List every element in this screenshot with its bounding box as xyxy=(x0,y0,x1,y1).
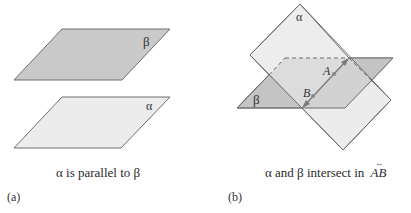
tag-b: (b) xyxy=(228,190,242,205)
label-beta-a: β xyxy=(143,34,150,49)
label-alpha-b: α xyxy=(296,10,303,24)
point-b xyxy=(311,94,315,98)
caption-b: α and β intersect in ↔ AB xyxy=(265,165,386,181)
point-a xyxy=(332,72,336,76)
diagram-canvas: β α α β A B xyxy=(0,0,411,213)
tag-a: (a) xyxy=(7,190,20,205)
caption-a: α is parallel to β xyxy=(56,165,140,181)
caption-b-line: ↔ AB xyxy=(371,165,387,181)
caption-b-text: α and β intersect in xyxy=(265,165,364,180)
label-point-b: B xyxy=(303,86,311,100)
double-arrow-icon: ↔ xyxy=(371,160,387,168)
label-alpha-a: α xyxy=(146,99,153,113)
label-point-a: A xyxy=(322,64,331,78)
label-beta-b: β xyxy=(253,92,260,107)
